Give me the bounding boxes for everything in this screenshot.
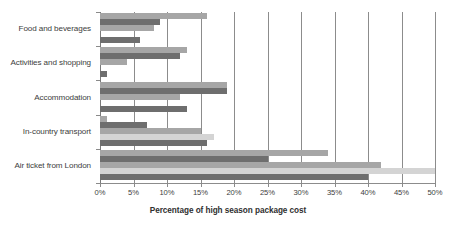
axis-tick bbox=[335, 183, 336, 187]
category-label: Food and beverages bbox=[0, 24, 91, 33]
axis-tick bbox=[268, 183, 269, 187]
axis-tick bbox=[301, 183, 302, 187]
category-axis-labels: Food and beveragesActivities and shoppin… bbox=[0, 12, 95, 183]
gridline bbox=[402, 12, 403, 183]
axis-tick bbox=[234, 183, 235, 187]
bar bbox=[100, 140, 207, 146]
bar bbox=[100, 94, 180, 100]
category-tick bbox=[96, 149, 100, 150]
axis-tick bbox=[201, 183, 202, 187]
axis-tick-label: 35% bbox=[327, 188, 342, 198]
bar bbox=[100, 71, 107, 77]
bar bbox=[100, 37, 140, 43]
gridline bbox=[435, 12, 436, 183]
gridline bbox=[301, 12, 302, 183]
horizontal-bar-chart: Food and beveragesActivities and shoppin… bbox=[0, 0, 456, 232]
axis-tick-label: 15% bbox=[193, 188, 208, 198]
category-tick bbox=[96, 12, 100, 13]
axis-tick bbox=[167, 183, 168, 187]
x-axis-title: Percentage of high season package cost bbox=[0, 206, 456, 215]
plot-area bbox=[100, 12, 435, 183]
axis-tick-label: 25% bbox=[260, 188, 275, 198]
category-tick bbox=[96, 46, 100, 47]
category-label: Air ticket from London bbox=[0, 161, 91, 170]
axis-tick bbox=[100, 183, 101, 187]
bar bbox=[100, 25, 154, 31]
axis-tick bbox=[402, 183, 403, 187]
gridline bbox=[268, 12, 269, 183]
category-label: Activities and shopping bbox=[0, 58, 91, 67]
axis-tick-label: 40% bbox=[360, 188, 375, 198]
category-tick bbox=[96, 115, 100, 116]
axis-tick-label: 50% bbox=[427, 188, 442, 198]
axis-tick bbox=[134, 183, 135, 187]
bar bbox=[100, 174, 368, 180]
axis-tick-label: 45% bbox=[394, 188, 409, 198]
category-label: Accommodation bbox=[0, 93, 91, 102]
axis-tick-label: 0% bbox=[95, 188, 106, 198]
axis-tick bbox=[435, 183, 436, 187]
category-label: In-country transport bbox=[0, 127, 91, 136]
axis-tick-label: 5% bbox=[128, 188, 139, 198]
category-tick-marks bbox=[96, 12, 100, 184]
axis-tick-label: 10% bbox=[159, 188, 174, 198]
axis-tick-label: 20% bbox=[226, 188, 241, 198]
category-tick bbox=[96, 80, 100, 81]
bar bbox=[100, 59, 127, 65]
axis-tick-label: 30% bbox=[293, 188, 308, 198]
axis-tick bbox=[368, 183, 369, 187]
bar bbox=[100, 106, 187, 112]
gridline bbox=[335, 12, 336, 183]
value-axis-tick-labels: 0%5%10%15%20%25%30%35%40%45%50% bbox=[100, 188, 435, 200]
gridline bbox=[368, 12, 369, 183]
